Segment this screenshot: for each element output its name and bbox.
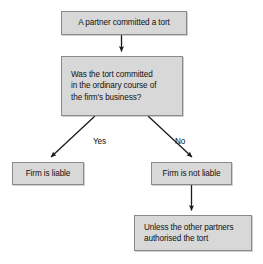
flowchart-canvas: A partner committed a tort Was the tort …	[0, 0, 263, 264]
edge-label-yes: Yes	[93, 137, 106, 147]
node-unless-other-partners-authorised[interactable]: Unless the other partners authorised the…	[134, 215, 252, 251]
node-label: Was the tort committed in the ordinary c…	[62, 69, 182, 104]
node-firm-is-liable[interactable]: Firm is liable	[12, 162, 84, 185]
node-label: Unless the other partners authorised the…	[135, 222, 251, 245]
node-partner-committed-tort[interactable]: A partner committed a tort	[61, 11, 187, 35]
connector-question-yes-to-firm-liable	[51, 116, 95, 157]
node-ordinary-course-question[interactable]: Was the tort committed in the ordinary c…	[61, 56, 183, 116]
node-firm-is-not-liable[interactable]: Firm is not liable	[151, 162, 232, 185]
edge-label-no: No	[175, 137, 185, 147]
node-label: Firm is not liable	[152, 168, 231, 180]
node-label: Firm is liable	[13, 168, 83, 180]
node-label: A partner committed a tort	[62, 17, 186, 29]
connector-question-no-to-firm-not-liable	[148, 116, 192, 157]
